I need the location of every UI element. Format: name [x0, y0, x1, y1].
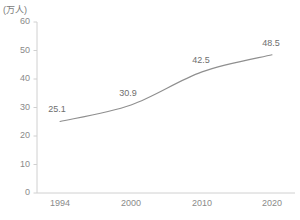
- data-point-value-label: 48.5: [256, 38, 286, 48]
- x-axis-tick-label: 2000: [111, 198, 151, 208]
- y-axis-tick-label: 50: [6, 45, 30, 55]
- x-axis-tick-label: 2020: [252, 198, 292, 208]
- y-axis-tick-label: 40: [6, 73, 30, 83]
- line-chart: (万人) 0102030405060 1994200020102020 25.1…: [0, 0, 300, 220]
- data-point-value-label: 42.5: [186, 55, 216, 65]
- y-axis-tick-label: 0: [6, 187, 30, 197]
- x-axis-tick-label: 1994: [40, 198, 80, 208]
- axis-ticks: [34, 22, 38, 193]
- y-axis-tick-label: 20: [6, 130, 30, 140]
- y-axis-tick-label: 10: [6, 159, 30, 169]
- data-point-value-label: 25.1: [42, 104, 72, 114]
- data-point-value-label: 30.9: [113, 88, 143, 98]
- x-axis-tick-label: 2010: [182, 198, 222, 208]
- y-axis-tick-label: 60: [6, 16, 30, 26]
- data-line-series: [60, 55, 272, 122]
- y-axis-tick-label: 30: [6, 102, 30, 112]
